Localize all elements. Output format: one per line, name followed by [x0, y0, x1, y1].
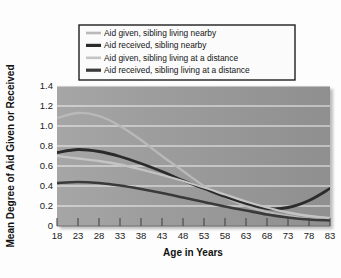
chart-figure: 1823283338434853586368737883 Age in Year…	[0, 0, 341, 278]
x-tick-label: 38	[136, 230, 147, 241]
plot-area	[57, 86, 330, 226]
y-tick-label: 0.6	[40, 160, 53, 171]
y-axis-title: Mean Degree of Aid Given or Received	[5, 64, 16, 247]
legend-label: Aid received, sibling living at a distan…	[104, 65, 250, 75]
x-tick-label: 53	[199, 230, 210, 241]
chart-canvas: 1823283338434853586368737883 Age in Year…	[0, 0, 341, 278]
x-tick-label: 48	[178, 230, 189, 241]
chart-legend: Aid given, sibling living nearbyAid rece…	[79, 25, 295, 80]
legend-label: Aid given, sibling living nearby	[104, 28, 217, 38]
x-axis-title: Age in Years	[163, 247, 223, 258]
x-tick-label: 73	[283, 230, 294, 241]
legend-label: Aid given, sibling living at a distance	[104, 53, 238, 63]
y-tick-label: 1.2	[40, 100, 53, 111]
x-tick-label: 58	[220, 230, 231, 241]
x-tick-label: 33	[115, 230, 126, 241]
x-tick-label: 28	[94, 230, 105, 241]
y-tick-label: 0.8	[40, 140, 53, 151]
x-tick-label: 83	[325, 230, 336, 241]
y-axis-tick-labels: 00.20.40.60.81.01.21.4	[40, 80, 53, 231]
y-axis: 00.20.40.60.81.01.21.4 Mean Degree of Ai…	[5, 64, 53, 247]
x-tick-label: 63	[241, 230, 252, 241]
x-tick-label: 78	[304, 230, 315, 241]
x-tick-label: 18	[52, 230, 63, 241]
plot-background	[57, 86, 330, 226]
y-tick-label: 0	[48, 220, 53, 231]
y-tick-label: 1.0	[40, 120, 53, 131]
x-tick-label: 43	[157, 230, 168, 241]
legend-label: Aid received, sibling nearby	[104, 40, 207, 50]
x-tick-label: 68	[262, 230, 273, 241]
y-tick-label: 1.4	[40, 80, 53, 91]
y-tick-label: 0.4	[40, 180, 53, 191]
x-axis-tick-labels: 1823283338434853586368737883	[52, 230, 336, 241]
y-tick-label: 0.2	[40, 200, 53, 211]
x-tick-label: 23	[73, 230, 84, 241]
